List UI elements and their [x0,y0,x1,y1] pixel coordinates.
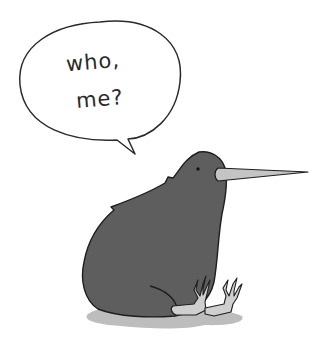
speech-bubble-line-1: who, [65,48,121,77]
speech-bubble-line-2: me? [75,85,124,113]
kiwi-beak [215,168,308,181]
kiwi-eye [196,167,199,170]
illustration: who, me? [0,0,328,340]
kiwi-illustration [0,0,328,340]
